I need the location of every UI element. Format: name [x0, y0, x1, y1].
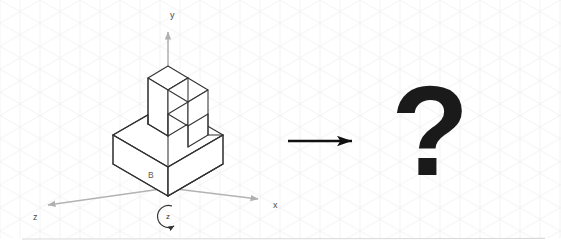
unknown-result: ? — [391, 59, 469, 202]
figure-canvas: y x z — [0, 0, 561, 252]
axis-z-label: z — [33, 212, 38, 222]
axis-x-label: x — [273, 200, 278, 210]
bottom-separator — [22, 238, 545, 239]
rotation-axis-label: z — [166, 212, 170, 221]
face-label-B: B — [148, 170, 154, 180]
axis-y-label: y — [170, 10, 175, 20]
isometric-grid — [0, 0, 561, 238]
